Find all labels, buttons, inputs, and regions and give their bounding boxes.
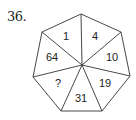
segment-label-3: 10 xyxy=(106,51,118,63)
segment-label-5: 31 xyxy=(75,92,87,104)
segment-label-unknown: ? xyxy=(55,77,61,89)
segment-label-7: 64 xyxy=(46,51,58,63)
segment-labels: 1 4 10 19 31 ? 64 xyxy=(46,30,118,104)
segment-label-4: 19 xyxy=(99,77,111,89)
segment-label-2: 4 xyxy=(92,30,98,42)
heptagon-puzzle: 1 4 10 19 31 ? 64 xyxy=(0,0,136,120)
segment-label-1: 1 xyxy=(63,30,69,42)
